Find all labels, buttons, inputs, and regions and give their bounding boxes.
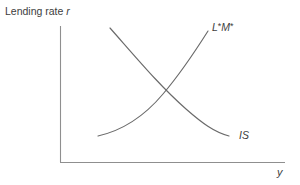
- lm-curve: [98, 31, 208, 136]
- x-axis-label: y: [277, 166, 283, 179]
- y-axis-variable: r: [66, 5, 70, 17]
- y-axis-label: Lending rate r: [5, 5, 70, 18]
- y-axis-label-text: Lending rate: [5, 5, 63, 17]
- lm-curve-label: L*M*: [212, 20, 234, 33]
- lm-label-star-2: *: [230, 21, 234, 31]
- is-lm-diagram: Lending rate r y L*M* IS: [0, 0, 300, 185]
- is-curve: [110, 28, 229, 136]
- lm-label-m: M: [221, 21, 230, 33]
- chart-canvas: [0, 0, 300, 185]
- is-curve-label: IS: [239, 129, 249, 141]
